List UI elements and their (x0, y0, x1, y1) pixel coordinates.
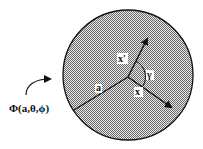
potential-label: Φ(a,θ,ϕ) (9, 102, 49, 115)
sphere-diagram: a x' x γ Φ(a,θ,ϕ) (0, 0, 203, 149)
radius-label: a (96, 82, 101, 93)
sphere (63, 10, 193, 140)
incoming-arrow-icon (26, 79, 50, 95)
angle-gamma-label: γ (146, 69, 152, 80)
vector-x-prime-label: x' (118, 53, 126, 64)
vector-x-label: x (135, 86, 140, 97)
